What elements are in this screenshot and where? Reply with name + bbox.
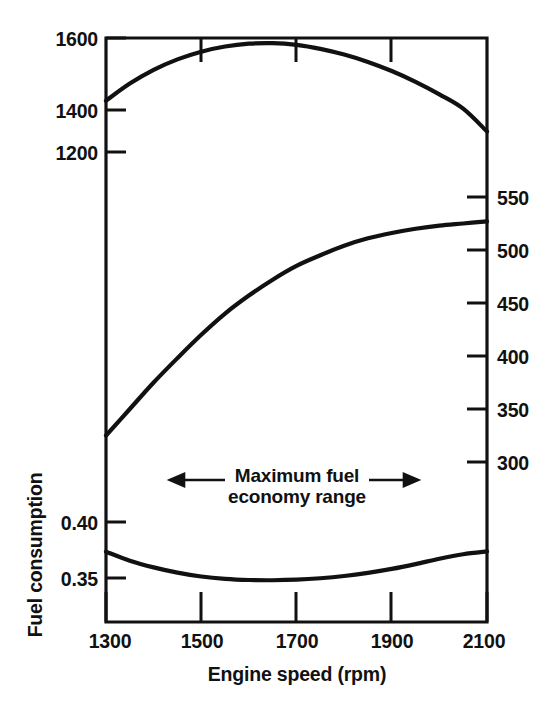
annotation-line-2: economy range <box>228 486 366 507</box>
axis-label-left-035: 0.35 <box>61 568 99 590</box>
right-axis-ticks <box>467 197 487 462</box>
axis-label-right-400: 400 <box>497 346 529 368</box>
axis-label-bottom-1500: 1500 <box>181 630 224 652</box>
axis-label-bottom-2100: 2100 <box>463 630 506 652</box>
axis-label-bottom-1700: 1700 <box>276 630 319 652</box>
axis-label-left-040: 0.40 <box>61 512 99 534</box>
y-axis-title: Fuel consumption <box>24 473 46 638</box>
axis-label-left-1200: 1200 <box>55 142 98 164</box>
engine-performance-chart: 1600 1400 1200 0.40 0.35 550 500 450 400… <box>0 0 552 716</box>
axis-label-left-1400: 1400 <box>55 100 98 122</box>
axis-label-bottom-1900: 1900 <box>371 630 414 652</box>
chart-container: 1600 1400 1200 0.40 0.35 550 500 450 400… <box>0 0 552 716</box>
annotation-left-arrow-icon <box>170 474 225 486</box>
axis-label-right-350: 350 <box>497 399 529 421</box>
annotation-right-arrow-icon <box>369 474 418 486</box>
left-lower-axis-ticks <box>106 522 126 578</box>
annotation-line-1: Maximum fuel <box>235 465 359 486</box>
axis-label-left-1600: 1600 <box>55 28 98 50</box>
plot-frame <box>106 38 487 622</box>
annotation-max-fuel-economy-range: Maximum fuel economy range <box>170 465 418 507</box>
axis-label-right-450: 450 <box>497 293 529 315</box>
curve-middle-series <box>106 221 487 435</box>
x-axis-title: Engine speed (rpm) <box>208 663 386 685</box>
axis-frame-rect <box>106 38 487 622</box>
axis-label-right-300: 300 <box>497 452 529 474</box>
bottom-axis-ticks <box>106 592 487 622</box>
axis-label-right-550: 550 <box>497 187 529 209</box>
axis-label-bottom-1300: 1300 <box>89 630 132 652</box>
axis-label-right-500: 500 <box>497 240 529 262</box>
curve-lower-series <box>106 551 487 580</box>
